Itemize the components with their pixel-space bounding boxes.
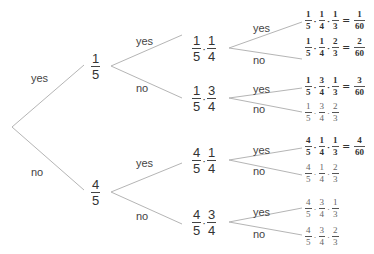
numerator: 4	[91, 178, 100, 192]
multiply-symbol: ·	[314, 82, 317, 92]
denominator: 5	[305, 20, 312, 31]
multiply-symbol: ·	[314, 204, 317, 214]
fraction: 45	[305, 198, 312, 219]
denominator: 3	[332, 47, 339, 58]
multiply-symbol: ·	[314, 43, 317, 53]
fraction: 15	[305, 102, 312, 123]
node-level2: 15 · 34	[192, 84, 216, 113]
multiply-symbol: ·	[202, 43, 206, 55]
fraction: 34	[319, 198, 326, 219]
multiply-symbol: ·	[327, 43, 330, 53]
multiply-symbol: ·	[314, 108, 317, 118]
denominator: 4	[319, 146, 326, 157]
numerator: 1	[207, 146, 216, 160]
numerator: 4	[192, 208, 201, 222]
numerator: 3	[319, 198, 326, 208]
numerator: 1	[319, 37, 326, 47]
multiply-symbol: ·	[202, 93, 206, 105]
numerator: 1	[332, 76, 339, 86]
fraction: 13	[332, 198, 339, 219]
fraction: 45	[192, 208, 201, 237]
numerator: 1	[305, 76, 312, 86]
equals-symbol: =	[343, 40, 350, 56]
equals-symbol: =	[343, 13, 350, 29]
branch-label-no: no	[136, 83, 148, 94]
leaf-outcome: 15 · 34 · 23	[305, 102, 339, 123]
fraction: 14	[207, 146, 216, 175]
denominator: 5	[192, 160, 201, 175]
fraction: 14	[319, 10, 326, 31]
node-level1-no: 45	[91, 178, 100, 207]
leaf-outcome: 45 · 14 · 23	[305, 163, 339, 184]
multiply-symbol: ·	[314, 16, 317, 26]
fraction: 23	[332, 37, 339, 58]
fraction: 15	[192, 84, 201, 113]
numerator: 1	[319, 163, 326, 173]
numerator: 4	[305, 226, 312, 236]
numerator: 1	[305, 10, 312, 20]
numerator: 1	[192, 84, 201, 98]
fraction: 14	[319, 37, 326, 58]
fraction: 15	[192, 34, 201, 63]
fraction: 14	[319, 163, 326, 184]
leaf-outcome: 15 · 14 · 13 = 160	[305, 10, 365, 31]
denominator: 3	[332, 146, 339, 157]
fraction: 13	[332, 136, 339, 157]
fraction: 34	[207, 208, 216, 237]
numerator: 3	[207, 84, 216, 98]
numerator: 3	[319, 102, 326, 112]
branch-label-yes: yes	[253, 84, 270, 95]
denominator: 4	[207, 98, 216, 113]
denominator: 4	[319, 20, 326, 31]
denominator: 4	[319, 47, 326, 58]
fraction: 34	[319, 102, 326, 123]
denominator: 5	[305, 112, 312, 123]
node-level2: 45 · 34	[192, 208, 216, 237]
fraction: 14	[207, 34, 216, 63]
denominator: 4	[319, 86, 326, 97]
branch-label-yes: yes	[31, 73, 48, 84]
denominator: 60	[354, 86, 365, 97]
numerator: 2	[332, 163, 339, 173]
denominator: 5	[91, 66, 100, 81]
numerator: 4	[305, 136, 312, 146]
numerator: 4	[356, 136, 363, 146]
branch-root-no	[12, 127, 84, 190]
branch-label-yes: yes	[136, 36, 153, 47]
leaf-outcome: 15 · 14 · 23 = 260	[305, 37, 365, 58]
fraction: 14	[319, 136, 326, 157]
branch-label-no: no	[31, 167, 43, 178]
multiply-symbol: ·	[327, 82, 330, 92]
denominator: 3	[332, 173, 339, 184]
fraction: 45	[305, 136, 312, 157]
fraction: 15	[305, 10, 312, 31]
branch-label-yes: yes	[253, 23, 270, 34]
denominator: 3	[332, 236, 339, 247]
denominator: 5	[192, 98, 201, 113]
numerator: 1	[332, 136, 339, 146]
fraction: 15	[305, 37, 312, 58]
numerator: 4	[305, 198, 312, 208]
numerator: 3	[319, 226, 326, 236]
multiply-symbol: ·	[327, 232, 330, 242]
denominator: 3	[332, 86, 339, 97]
branch-label-no: no	[136, 211, 148, 222]
denominator: 60	[354, 47, 365, 58]
fraction: 23	[332, 226, 339, 247]
multiply-symbol: ·	[327, 204, 330, 214]
result-fraction: 260	[354, 37, 365, 58]
numerator: 3	[356, 76, 363, 86]
numerator: 3	[207, 208, 216, 222]
denominator: 4	[319, 236, 326, 247]
denominator: 5	[305, 236, 312, 247]
denominator: 5	[305, 173, 312, 184]
numerator: 2	[332, 102, 339, 112]
denominator: 4	[207, 160, 216, 175]
result-fraction: 360	[354, 76, 365, 97]
branch-label-yes: yes	[136, 158, 153, 169]
leaf-outcome: 15 · 34 · 13 = 360	[305, 76, 365, 97]
numerator: 4	[305, 163, 312, 173]
numerator: 1	[91, 52, 100, 66]
node-level1-yes: 15	[91, 52, 100, 81]
denominator: 5	[305, 86, 312, 97]
